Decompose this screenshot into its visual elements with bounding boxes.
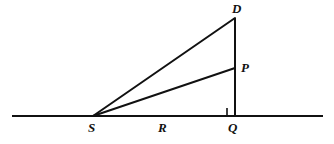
vertex-label-Q: Q: [228, 121, 237, 134]
vertex-label-D: D: [232, 2, 241, 15]
segment-SP: [93, 68, 235, 116]
geometry-canvas: [0, 0, 334, 144]
right-angle-marker-Q: [227, 108, 235, 116]
vertex-label-S: S: [88, 121, 95, 134]
vertex-label-P: P: [241, 61, 249, 74]
segment-label-R: R: [158, 121, 167, 134]
segment-SD: [93, 18, 235, 116]
geometry-figure: D P S R Q: [0, 0, 334, 144]
